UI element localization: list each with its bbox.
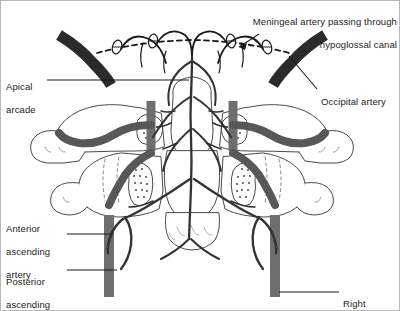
twig-left-a (161, 111, 175, 112)
label-right-vertebral-artery: Right vertebral artery (343, 286, 400, 311)
label-occipital-line1: Occipital artery (321, 96, 386, 107)
atlas-anterior-arch (165, 213, 219, 250)
label-posterior-ascending-artery: Posterior ascending artery (6, 264, 68, 311)
label-apical-arcade: Apical arcade (6, 69, 66, 115)
label-apical-line2: arcade (6, 104, 36, 115)
leader-occipital (289, 56, 317, 89)
occipital-artery-left (59, 35, 111, 85)
posterior-ascending-artery-left (121, 217, 131, 269)
label-anterior-line2: ascending (6, 246, 50, 257)
label-anterior-line1: Anterior (6, 223, 40, 234)
label-meningeal-line2: hypoglossal canal (320, 39, 397, 50)
label-posterior-line1: Posterior (6, 276, 45, 287)
label-apical-line1: Apical (6, 81, 32, 92)
label-posterior-line2: ascending (6, 299, 50, 310)
anatomy-figure: Meningeal artery passing through hypoglo… (0, 0, 400, 311)
label-occipital-artery: Occipital artery (321, 84, 400, 107)
posterior-ascending-artery-right (253, 217, 263, 269)
twig-right-a (209, 111, 223, 112)
label-meningeal-artery: Meningeal artery passing through hypoglo… (219, 4, 397, 50)
arcade-twig-left-1 (141, 43, 143, 67)
label-meningeal-line1: Meningeal artery passing through (253, 16, 397, 27)
label-right-vertebral-line1: Right vertebral artery (343, 298, 381, 311)
